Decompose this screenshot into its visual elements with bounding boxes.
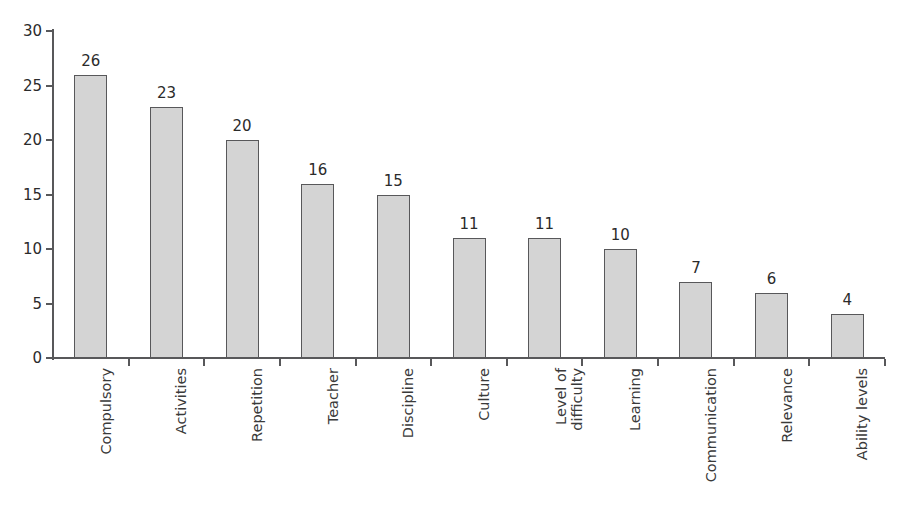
category-label: Relevance [779,368,795,510]
x-tick-mark [808,359,810,366]
bar [301,184,334,358]
category-label: Culture [476,368,492,510]
y-tick-label: 25 [6,78,42,93]
category-label-line: Repetition [249,368,265,442]
category-label: Ability levels [854,368,870,510]
y-tick-mark [46,303,53,305]
bar [453,238,486,358]
bar-chart: 051015202530 2623201615111110764 Compuls… [0,0,904,513]
y-tick-mark [46,139,53,141]
x-tick-mark [355,359,357,366]
category-label-line: Discipline [400,368,416,438]
category-label-line: Communication [703,368,719,482]
x-tick-mark [657,359,659,366]
category-label: Communication [703,368,719,510]
y-tick-label: 5 [6,296,42,311]
category-label-line: Activities [173,368,189,434]
bar-value-label: 4 [817,293,877,308]
category-label: Level ofdifficulty [553,368,585,510]
y-tick-mark [46,30,53,32]
bar-value-label: 26 [61,54,121,69]
category-label: Learning [627,368,643,510]
x-tick-mark [203,359,205,366]
category-label: Compulsory [98,368,114,510]
x-tick-mark [884,359,886,366]
x-tick-mark [128,359,130,366]
bar [755,293,788,358]
category-label-line: Level of [553,368,569,425]
x-tick-mark [506,359,508,366]
category-label-line: Compulsory [98,368,114,455]
bar-value-label: 16 [288,163,348,178]
category-label: Repetition [249,368,265,510]
y-tick-label: 0 [6,351,42,366]
x-tick-mark [581,359,583,366]
bar-value-label: 20 [212,119,272,134]
y-tick-label: 20 [6,133,42,148]
x-tick-mark [733,359,735,366]
bar [377,195,410,359]
bar-value-label: 7 [666,261,726,276]
bar-value-label: 15 [363,174,423,189]
category-label: Activities [173,368,189,510]
x-tick-mark [430,359,432,366]
bar [226,140,259,358]
bar-value-label: 6 [742,272,802,287]
y-tick-mark [46,194,53,196]
bar [74,75,107,358]
bar [679,282,712,358]
y-tick-label: 30 [6,24,42,39]
bar-value-label: 11 [439,217,499,232]
bar-value-label: 11 [515,217,575,232]
category-label: Teacher [325,368,341,510]
y-tick-label: 15 [6,187,42,202]
x-tick-mark [279,359,281,366]
bar-value-label: 10 [590,228,650,243]
bar [604,249,637,358]
bar-value-label: 23 [136,86,196,101]
category-label: Discipline [400,368,416,510]
category-label-line: Culture [476,368,492,421]
category-label-line: difficulty [569,368,585,510]
bar [150,107,183,358]
bar [831,314,864,358]
category-label-line: Teacher [325,368,341,424]
category-label-line: Ability levels [854,368,870,460]
bar [528,238,561,358]
category-label-line: Learning [627,368,643,431]
y-tick-mark [46,248,53,250]
y-tick-label: 10 [6,242,42,257]
y-tick-mark [46,357,53,359]
category-label-line: Relevance [779,368,795,443]
y-tick-mark [46,85,53,87]
